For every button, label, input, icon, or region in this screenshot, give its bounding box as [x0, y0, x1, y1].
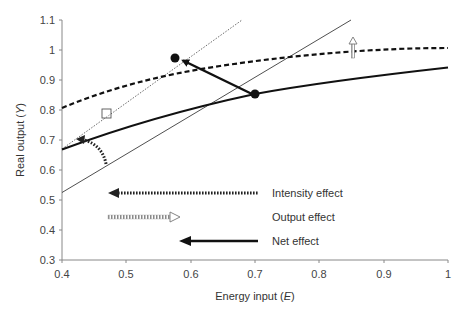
y-tick-label: 0.9: [40, 74, 55, 86]
x-axis: 0.4 0.5 0.6 0.7 0.8 0.9 1: [54, 260, 451, 280]
legend-intensity-effect: Intensity effect: [108, 187, 343, 199]
y-axis: 1.1 1 0.9 0.8 0.7 0.6 0.5 0.4 0.3: [40, 14, 62, 266]
legend: Intensity effect Output effect Net effec…: [108, 187, 343, 247]
y-tick-label: 1: [49, 44, 55, 56]
x-tick-label: 0.4: [54, 268, 69, 280]
production-curve-shifted: [62, 48, 448, 108]
chart-canvas: 1.1 1 0.9 0.8 0.7 0.6 0.5 0.4 0.3 0.4 0.…: [0, 0, 468, 316]
legend-label: Intensity effect: [272, 187, 343, 199]
production-curve-initial: [62, 68, 448, 150]
legend-output-effect: Output effect: [108, 211, 335, 223]
y-tick-label: 0.3: [40, 254, 55, 266]
x-tick-label: 0.8: [311, 268, 326, 280]
legend-net-effect: Net effect: [179, 235, 319, 247]
point-initial: [251, 90, 260, 99]
point-final: [171, 54, 180, 63]
point-intermediate: [102, 109, 111, 118]
x-tick-label: 0.5: [118, 268, 133, 280]
x-tick-label: 1: [445, 268, 451, 280]
y-tick-label: 0.7: [40, 134, 55, 146]
y-tick-label: 0.6: [40, 164, 55, 176]
legend-label: Output effect: [272, 211, 335, 223]
output-effect-arrow-vertical: [349, 37, 357, 58]
y-tick-label: 0.4: [40, 224, 55, 236]
x-tick-label: 0.9: [376, 268, 391, 280]
intensity-ray-new: [62, 20, 242, 149]
x-axis-title: Energy input (E): [215, 290, 295, 302]
y-tick-label: 0.8: [40, 104, 55, 116]
y-tick-label: 1.1: [40, 14, 55, 26]
x-tick-label: 0.6: [183, 268, 198, 280]
y-axis-title: Real output (Y): [14, 103, 26, 177]
legend-label: Net effect: [272, 235, 319, 247]
y-tick-label: 0.5: [40, 194, 55, 206]
x-tick-label: 0.7: [247, 268, 262, 280]
